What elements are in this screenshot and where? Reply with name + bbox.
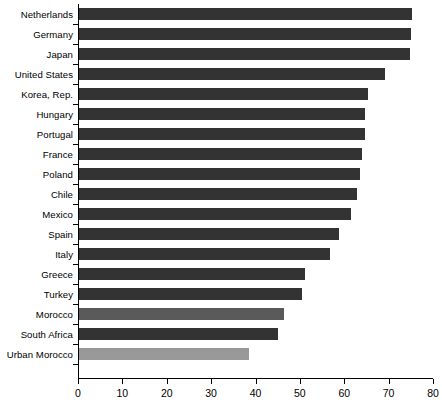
x-axis-tick [433, 379, 434, 384]
category-label: Morocco [0, 309, 73, 321]
x-axis-tick-label: 10 [107, 387, 137, 400]
category-label: Portugal [0, 129, 73, 141]
bar [79, 128, 365, 140]
x-axis-tick [389, 379, 390, 384]
x-axis-tick-label: 60 [329, 387, 359, 400]
x-axis-tick [78, 379, 79, 384]
x-axis-tick [344, 379, 345, 384]
category-label: Urban Morocco [0, 349, 73, 361]
category-label: Poland [0, 169, 73, 181]
category-label: Hungary [0, 109, 73, 121]
x-axis-tick [256, 379, 257, 384]
bar [79, 228, 339, 240]
x-axis-tick [211, 379, 212, 384]
category-label: Spain [0, 229, 73, 241]
category-label: France [0, 149, 73, 161]
bar [79, 48, 410, 60]
category-label: Netherlands [0, 9, 73, 21]
bar [79, 68, 385, 80]
x-axis-tick [300, 379, 301, 384]
x-axis-tick-label: 50 [285, 387, 315, 400]
x-axis-tick [167, 379, 168, 384]
x-axis-tick-label: 40 [241, 387, 271, 400]
bar [79, 268, 305, 280]
x-axis-tick-label: 80 [418, 387, 442, 400]
category-label: Turkey [0, 289, 73, 301]
bar [79, 8, 412, 20]
category-label: South Africa [0, 329, 73, 341]
x-axis-tick-label: 70 [374, 387, 404, 400]
bar [79, 248, 330, 260]
x-axis-tick-label: 0 [63, 387, 93, 400]
category-label: Korea, Rep. [0, 89, 73, 101]
bar [79, 108, 365, 120]
bar [79, 28, 411, 40]
bar [79, 308, 284, 320]
horizontal-bar-chart: NetherlandsGermanyJapanUnited StatesKore… [0, 0, 442, 413]
x-axis-tick-label: 20 [152, 387, 182, 400]
bar [79, 148, 362, 160]
category-label: Mexico [0, 209, 73, 221]
category-label: Japan [0, 49, 73, 61]
category-label: Chile [0, 189, 73, 201]
bar [79, 288, 302, 300]
x-axis-tick [122, 379, 123, 384]
x-axis-tick-label: 30 [196, 387, 226, 400]
bar [79, 168, 360, 180]
category-label: Germany [0, 29, 73, 41]
bar [79, 348, 249, 360]
bar [79, 188, 357, 200]
bar [79, 328, 278, 340]
category-label: Greece [0, 269, 73, 281]
bar [79, 88, 368, 100]
category-label: United States [0, 69, 73, 81]
bar [79, 208, 351, 220]
category-label: Italy [0, 249, 73, 261]
